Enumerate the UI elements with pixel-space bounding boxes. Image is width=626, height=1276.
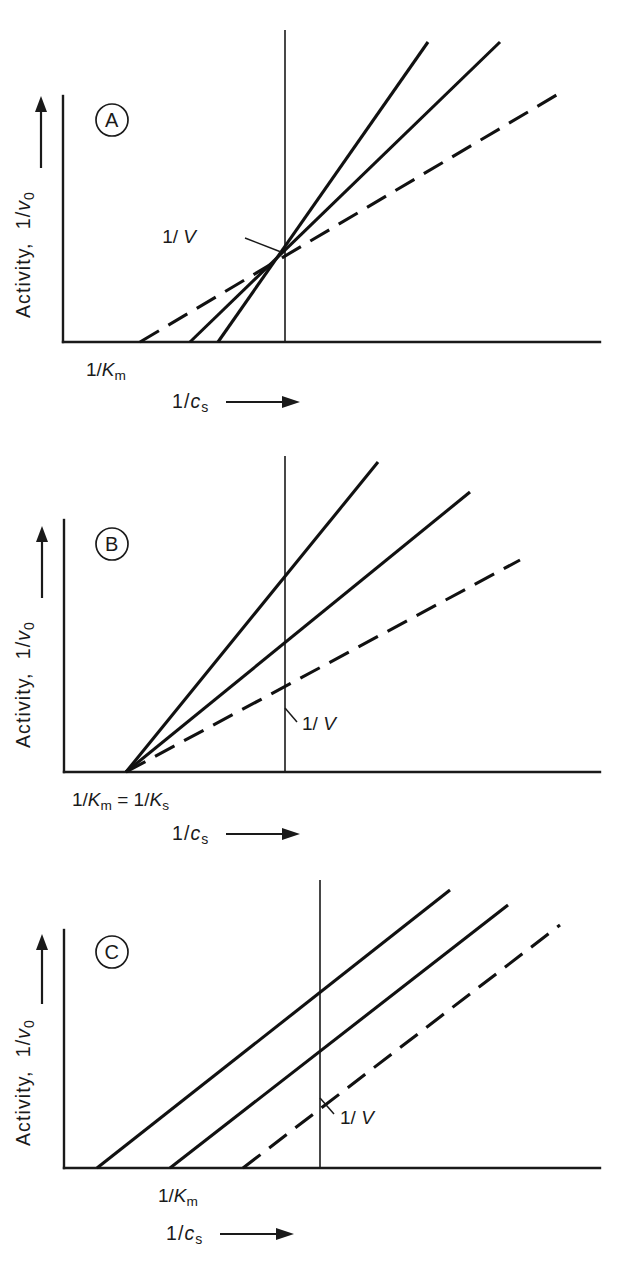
plot-line-middle-solid	[126, 492, 470, 772]
plot-line-dashed	[126, 560, 520, 772]
y-axis-label: Activity, 1/v0	[12, 621, 37, 748]
x-axis-label: 1/cs	[172, 822, 209, 847]
x-axis-label: 1/cs	[166, 1222, 203, 1247]
x-axis-arrow-icon	[282, 828, 300, 840]
panel-c-plot: C Activity, 1/v0 1/Km 1/cs 1/ V	[0, 852, 626, 1276]
panel-a-plot: A Activity, 1/v0 1/Km 1/cs 1/ V	[0, 0, 626, 426]
panel-a: A Activity, 1/v0 1/Km 1/cs 1/ V	[0, 0, 626, 426]
annotation-1-over-v: 1/ V	[340, 1107, 376, 1128]
y-axis-arrow-icon	[36, 934, 48, 950]
panel-c: C Activity, 1/v0 1/Km 1/cs 1/ V	[0, 852, 626, 1276]
plot-line-left-solid	[97, 890, 450, 1168]
plot-line-dashed	[140, 90, 565, 342]
plot-line-middle-solid	[190, 42, 500, 342]
plot-line-dashed	[243, 925, 560, 1168]
panel-letter-b: B	[105, 533, 119, 555]
plot-line-steep-solid	[126, 462, 378, 772]
y-axis-arrow-icon	[36, 526, 48, 542]
y-axis-label: Activity, 1/v0	[12, 191, 37, 318]
panel-letter-c: C	[105, 941, 120, 963]
panel-letter-a: A	[105, 109, 119, 131]
x-tick-label-km: 1/Km	[86, 359, 126, 383]
x-axis-label: 1/cs	[172, 390, 209, 415]
x-tick-label-km-eq-ks: 1/Km = 1/Ks	[72, 789, 169, 813]
plot-line-steep-solid	[218, 42, 428, 342]
panel-b: B Activity, 1/v0 1/Km = 1/Ks 1/cs 1/ V	[0, 426, 626, 852]
panel-b-plot: B Activity, 1/v0 1/Km = 1/Ks 1/cs 1/ V	[0, 426, 626, 852]
y-axis-arrow-icon	[35, 96, 47, 112]
y-axis-label: Activity, 1/v0	[12, 1019, 37, 1146]
x-axis-arrow-icon	[282, 396, 300, 408]
annotation-1-over-v: 1/ V	[302, 713, 338, 734]
x-axis-arrow-icon	[276, 1228, 294, 1240]
annotation-leader-line	[245, 238, 281, 252]
x-tick-label-km: 1/Km	[158, 1185, 198, 1209]
plot-line-middle-solid	[170, 905, 508, 1168]
figure-root: A Activity, 1/v0 1/Km 1/cs 1/ V	[0, 0, 626, 1276]
annotation-1-over-v: 1/ V	[162, 226, 198, 247]
annotation-leader-line	[285, 708, 297, 722]
